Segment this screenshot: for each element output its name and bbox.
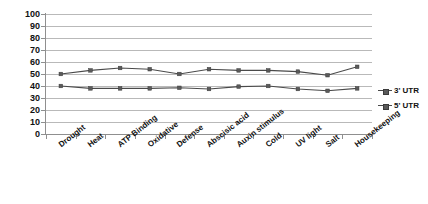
y-axis-label-40: 40: [0, 82, 40, 91]
data-point-s1-8: [296, 70, 300, 74]
data-point-s2-5: [207, 87, 211, 91]
data-point-s1-6: [237, 69, 241, 73]
y-axis-tick-labels: 1009080706050403020100: [0, 14, 40, 134]
y-axis-label-60: 60: [0, 58, 40, 67]
y-axis-label-100: 100: [0, 10, 40, 19]
chart-legend: 3' UTR5' UTR: [378, 84, 428, 114]
legend-label-2: 5' UTR: [394, 101, 419, 110]
series-layer: [46, 14, 372, 134]
y-axis-label-70: 70: [0, 46, 40, 55]
legend-item-1[interactable]: 3' UTR: [378, 84, 428, 97]
legend-label-1: 3' UTR: [394, 86, 419, 95]
y-axis-label-0: 0: [0, 130, 40, 139]
data-point-s1-4: [178, 72, 182, 76]
data-point-s2-7: [266, 84, 270, 88]
data-point-s2-2: [118, 87, 122, 91]
data-point-s2-1: [89, 87, 93, 91]
data-point-s1-2: [118, 66, 122, 70]
y-axis-label-30: 30: [0, 94, 40, 103]
y-axis-label-80: 80: [0, 34, 40, 43]
y-axis-label-20: 20: [0, 106, 40, 115]
data-point-s1-9: [326, 73, 330, 77]
data-point-s2-10: [355, 87, 359, 91]
data-point-s2-6: [237, 85, 241, 89]
y-axis-label-10: 10: [0, 118, 40, 127]
y-axis-label-50: 50: [0, 70, 40, 79]
legend-marker-icon-2: [378, 102, 392, 110]
x-axis-label-9: Salt: [324, 133, 341, 149]
line-chart: 1009080706050403020100 DroughtHeatATP Bi…: [0, 0, 428, 204]
series-2: [59, 84, 359, 92]
data-point-s1-1: [89, 69, 93, 73]
data-point-s2-3: [148, 87, 152, 91]
data-point-s1-10: [355, 65, 359, 69]
data-point-s1-3: [148, 67, 152, 71]
y-axis-label-90: 90: [0, 22, 40, 31]
data-point-s1-5: [207, 67, 211, 71]
data-point-s1-7: [266, 69, 270, 73]
legend-marker-icon-1: [378, 87, 392, 95]
plot-area: [46, 14, 372, 134]
data-point-s2-0: [59, 84, 63, 88]
data-point-s2-8: [296, 87, 300, 91]
data-point-s2-9: [326, 89, 330, 93]
data-point-s2-4: [178, 86, 182, 90]
legend-item-2[interactable]: 5' UTR: [378, 99, 428, 112]
data-point-s1-0: [59, 72, 63, 76]
series-1: [59, 65, 359, 77]
